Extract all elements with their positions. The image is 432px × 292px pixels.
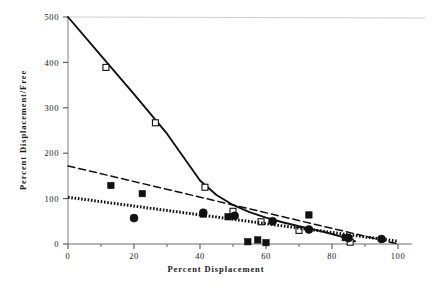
x-tick-label: 100 (391, 251, 406, 261)
marker-filled-circle (305, 225, 313, 233)
marker-filled-circle (231, 212, 239, 220)
x-tick-label: 60 (261, 251, 271, 261)
marker-filled-square (139, 190, 145, 196)
x-tick-label: 20 (129, 251, 139, 261)
y-tick-label: 500 (44, 12, 59, 22)
marker-filled-circle (378, 235, 386, 243)
y-tick-label: 200 (44, 148, 59, 158)
plot-canvas: 0100200300400500020406080100 Percent Dis… (0, 0, 432, 292)
marker-open-square (103, 64, 109, 70)
y-tick-label: 100 (44, 194, 59, 204)
x-axis-title: Percent Displacement (168, 264, 265, 274)
marker-open-square (152, 120, 158, 126)
marker-filled-square (108, 182, 114, 188)
marker-filled-circle (269, 217, 277, 225)
y-tick-label: 0 (54, 239, 59, 249)
x-tick-label: 0 (66, 251, 71, 261)
x-tick-label: 40 (195, 251, 205, 261)
marker-filled-square (245, 239, 251, 245)
y-tick-label: 300 (44, 103, 59, 113)
marker-open-square (202, 184, 208, 190)
series-solid-open-square (68, 17, 355, 245)
marker-filled-circle (199, 209, 207, 217)
y-tick-label: 400 (44, 58, 59, 68)
data-series-layer (68, 17, 398, 246)
top-rule (68, 17, 425, 18)
axis-tick-labels: 0100200300400500020406080100 (44, 12, 405, 261)
marker-filled-square (263, 239, 269, 245)
marker-filled-circle (130, 214, 138, 222)
marker-filled-square (255, 237, 261, 243)
series-solid-open-square-fit-line (68, 17, 355, 241)
x-tick-label: 80 (327, 251, 337, 261)
marker-filled-square (306, 212, 312, 218)
y-axis-title: Percent Displacement/Free (18, 70, 28, 190)
marker-filled-circle (345, 234, 353, 242)
scatter-plot-figure: 0100200300400500020406080100 Percent Dis… (0, 0, 432, 292)
